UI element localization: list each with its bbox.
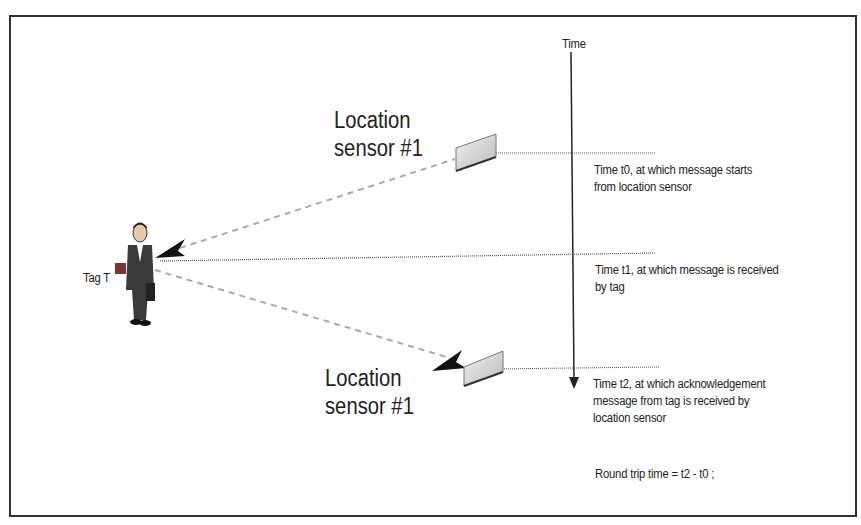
sensor-top-label-line2: sensor #1 xyxy=(334,134,423,162)
event-t1-line1: Time t1, at which message is received xyxy=(595,262,779,278)
time-axis-label: Time xyxy=(562,36,586,52)
event-t0-line2: from location sensor xyxy=(594,179,692,195)
sensor-top-label-line1: Location xyxy=(334,106,411,134)
arrow-to-sensor-icon xyxy=(432,350,466,371)
tag-square-icon xyxy=(115,263,126,274)
location-sensor-bottom-icon xyxy=(464,351,503,386)
location-sensor-top-icon xyxy=(456,134,496,171)
sensor-bottom-label-line1: Location xyxy=(325,364,402,392)
event-t0-line1: Time t0, at which message starts xyxy=(594,162,752,178)
tag-label: Tag T xyxy=(83,270,110,286)
person-icon xyxy=(126,223,155,327)
event-t1-line2: by tag xyxy=(595,279,625,295)
signal-paths xyxy=(155,159,455,358)
event-t2-line3: location sensor xyxy=(593,410,666,426)
sensor-bottom-label-line2: sensor #1 xyxy=(325,392,414,420)
time-axis xyxy=(569,52,579,389)
event-t2-line1: Time t2, at which acknowledgement xyxy=(593,376,765,392)
event-t2-line2: message from tag is received by xyxy=(593,393,749,409)
round-trip-formula: Round trip time = t2 - t0 ; xyxy=(595,466,714,482)
event-lines xyxy=(160,153,660,369)
